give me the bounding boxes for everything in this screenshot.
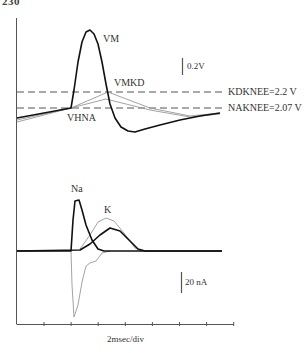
figure: 230 VM VMKD VHNA KDKNEE=2.2 V NAKNEE=2.0… bbox=[0, 0, 305, 353]
plot-canvas bbox=[0, 0, 305, 353]
label-time-scale: 2msec/div bbox=[107, 335, 144, 344]
label-volt-scale: 0.2V bbox=[187, 62, 205, 71]
label-naknee: NAKNEE=2.07 V bbox=[228, 103, 302, 113]
trace-na bbox=[17, 200, 222, 251]
label-vmkd: VMKD bbox=[114, 78, 145, 88]
label-na: Na bbox=[71, 184, 83, 194]
label-kdknee: KDKNEE=2.2 V bbox=[228, 87, 297, 97]
trace-k bbox=[17, 228, 222, 251]
label-vm: VM bbox=[103, 34, 119, 44]
trace-inward-approx bbox=[71, 251, 110, 317]
label-k: K bbox=[104, 205, 111, 215]
label-vhna: VHNA bbox=[67, 113, 96, 123]
trace-vhna bbox=[17, 99, 220, 120]
label-current-scale: 20 nA bbox=[185, 278, 207, 287]
